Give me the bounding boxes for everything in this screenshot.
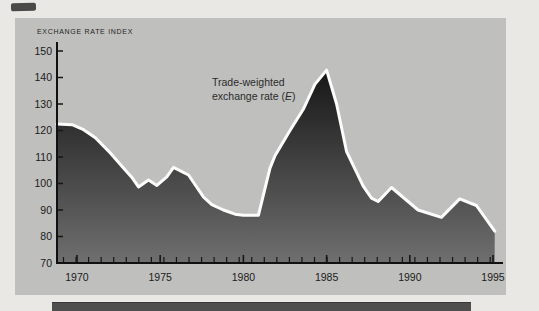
y-tick-label: 140 — [34, 71, 52, 83]
y-tick-label: 150 — [34, 45, 52, 57]
scanned-figure-page: 1501401301201101009080701970197519801985… — [0, 0, 539, 311]
y-tick-label: 130 — [34, 98, 52, 110]
x-tick-label: 1970 — [65, 271, 89, 283]
y-tick-label: 110 — [35, 151, 52, 163]
y-axis-title: EXCHANGE RATE INDEX — [37, 28, 133, 35]
y-tick-label: 100 — [34, 177, 52, 189]
x-tick-label: 1990 — [398, 271, 422, 283]
x-tick-label: 1980 — [232, 271, 256, 283]
y-tick-label: 90 — [40, 204, 52, 216]
variable-E: E — [285, 90, 292, 102]
y-tick-label: 120 — [34, 124, 52, 136]
x-tick-label: 1995 — [481, 271, 505, 283]
caption-box-top-edge — [52, 302, 471, 311]
exchange-rate-chart: 1501401301201101009080701970197519801985… — [0, 0, 539, 311]
annotation-line-1: Trade-weighted — [212, 76, 295, 90]
series-annotation: Trade-weighted exchange rate (E) — [212, 76, 295, 103]
y-tick-label: 70 — [40, 257, 52, 269]
x-tick-label: 1985 — [315, 271, 339, 283]
x-tick-label: 1975 — [148, 271, 172, 283]
y-tick-label: 80 — [40, 230, 52, 242]
annotation-line-2: exchange rate (E) — [212, 90, 295, 104]
